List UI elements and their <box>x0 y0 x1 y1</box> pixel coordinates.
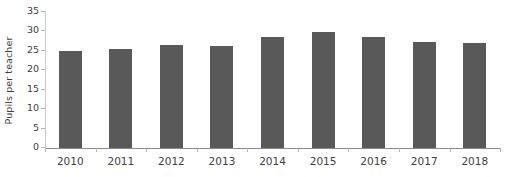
x-tick <box>348 148 399 153</box>
y-tick-label: 30 <box>27 24 39 35</box>
x-axis-label: 2011 <box>96 155 147 171</box>
bar-slot <box>348 12 399 148</box>
x-tick <box>450 148 501 153</box>
bar <box>362 37 385 148</box>
y-tick-label: 5 <box>33 122 39 133</box>
bar-slot <box>96 12 147 148</box>
x-tick-mark <box>399 148 400 152</box>
x-tick-mark <box>500 148 501 152</box>
y-tick-label: 25 <box>27 44 39 55</box>
x-tick <box>146 148 197 153</box>
x-axis-ticks <box>45 148 500 153</box>
x-tick-mark <box>348 148 349 152</box>
y-axis-title: Pupils per teacher <box>0 0 18 160</box>
y-tick-label: 35 <box>27 5 39 16</box>
bar <box>261 37 284 148</box>
x-axis-label: 2013 <box>197 155 248 171</box>
bar-slot <box>247 12 298 148</box>
x-tick <box>399 148 450 153</box>
bar-slot <box>45 12 96 148</box>
x-tick <box>298 148 349 153</box>
bar <box>160 45 183 148</box>
x-tick-mark <box>146 148 147 152</box>
x-axis-label: 2017 <box>399 155 450 171</box>
y-axis-title-label: Pupils per teacher <box>4 36 15 124</box>
x-axis-label: 2014 <box>247 155 298 171</box>
x-tick-mark <box>298 148 299 152</box>
bar-slot <box>399 12 450 148</box>
x-tick <box>197 148 248 153</box>
bar-slot <box>146 12 197 148</box>
x-tick-mark <box>247 148 248 152</box>
bar <box>312 32 335 148</box>
x-tick-mark <box>197 148 198 152</box>
y-tick-label: 20 <box>27 63 39 74</box>
y-tick-label: 15 <box>27 83 39 94</box>
bar-chart: Pupils per teacher 05101520253035 201020… <box>0 0 505 177</box>
bar <box>463 43 486 148</box>
bar <box>109 49 132 148</box>
bar <box>210 46 233 148</box>
x-axis-label: 2010 <box>45 155 96 171</box>
bar <box>59 51 82 148</box>
bar-slot <box>450 12 501 148</box>
x-tick <box>247 148 298 153</box>
x-axis-label: 2015 <box>298 155 349 171</box>
x-axis-label: 2012 <box>146 155 197 171</box>
x-axis-labels: 201020112012201320142015201620172018 <box>45 155 500 171</box>
x-axis-label: 2016 <box>348 155 399 171</box>
bars-layer <box>45 12 500 148</box>
x-tick <box>45 148 96 153</box>
x-tick-mark <box>45 148 46 152</box>
y-tick-label: 10 <box>27 102 39 113</box>
bar-slot <box>298 12 349 148</box>
x-tick-mark <box>450 148 451 152</box>
x-axis-label: 2018 <box>450 155 501 171</box>
y-tick-label: 0 <box>33 141 39 152</box>
x-tick <box>96 148 147 153</box>
bar <box>413 42 436 148</box>
x-tick-mark <box>96 148 97 152</box>
bar-slot <box>197 12 248 148</box>
